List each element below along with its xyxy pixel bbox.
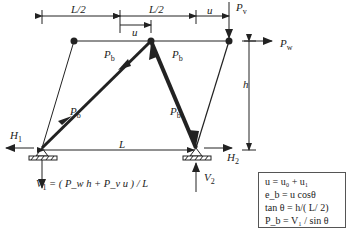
label-u-middle: u bbox=[132, 27, 138, 38]
equation-pb: P_b = V₁ / sin θ bbox=[265, 216, 328, 226]
label-pb-right-lower: Pb bbox=[170, 106, 181, 120]
node-apex bbox=[148, 38, 155, 45]
label-pw: Pw bbox=[280, 38, 293, 52]
label-right-half-span: L/2 bbox=[149, 4, 164, 15]
v1-formula: V1 = ( P_w h + P_v u ) / L bbox=[36, 179, 148, 192]
label-left-half-span: L/2 bbox=[71, 4, 86, 15]
label-pb-left-upper: Pb bbox=[104, 49, 115, 63]
label-h1: H1 bbox=[10, 130, 22, 144]
label-pb-left-lower: Pb bbox=[70, 106, 81, 120]
node-left bbox=[71, 38, 78, 45]
equation-eb: e_b = u cosθ bbox=[265, 190, 316, 200]
label-pv: Pv bbox=[236, 2, 247, 16]
equations-box: u = u₀ + u₁ e_b = u cosθ tan θ = h/( L/ … bbox=[258, 172, 346, 228]
label-v2: V2 bbox=[204, 172, 215, 186]
label-L: L bbox=[119, 139, 125, 150]
label-h: h bbox=[243, 79, 249, 90]
equation-u: u = u₀ + u₁ bbox=[265, 177, 308, 187]
right-post bbox=[196, 41, 229, 148]
node-right bbox=[226, 38, 233, 45]
label-pb-right-upper: Pb bbox=[172, 49, 183, 63]
label-u-right: u bbox=[207, 5, 213, 16]
label-h2: H2 bbox=[227, 152, 239, 166]
equation-tan-theta: tan θ = h/( L/ 2) bbox=[265, 203, 328, 213]
